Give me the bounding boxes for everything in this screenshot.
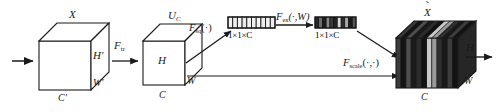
transform-operator-f: F	[114, 39, 121, 51]
transform-operator-subscript: tr	[121, 45, 125, 52]
excite-vector-dim-label: 1×1×C	[315, 30, 339, 40]
squeeze-operator-args: (·)	[201, 22, 212, 33]
result-cube-channel-label: C	[421, 92, 428, 102]
input-cube-channel-label: C'	[58, 93, 67, 103]
input-cube-top-label: X	[69, 9, 76, 20]
output-cube-height-label: H	[158, 55, 166, 66]
output-cube-u: U	[168, 9, 176, 21]
result-cube-height-label: H	[466, 42, 474, 53]
se-block-figure: X H' W' C' Ftr UC H W C Fsq(·) 1×1×C Fex…	[0, 0, 504, 112]
result-cube-tilde-accent: ˜	[426, 2, 429, 11]
scale-operator-label: Fscale(·,·)	[343, 58, 379, 69]
output-cube-channel-label: C	[159, 90, 166, 100]
output-cube-width-label: W	[187, 76, 195, 86]
squeeze-operator-label: Fsq(·)	[189, 23, 212, 34]
result-cube-width-label: W	[464, 76, 472, 86]
excitation-weights-vector	[315, 17, 356, 28]
apply-weights-arrow	[357, 31, 399, 58]
scale-operator-args: (·,·)	[362, 57, 379, 68]
squeeze-vector-dim-label: 1×1×C	[228, 30, 252, 40]
output-cube-top-subscript: C	[176, 15, 181, 22]
result-cube-top-label: ˜X	[424, 7, 431, 18]
output-cube-top-label: UC	[168, 10, 181, 23]
excite-operator-args: (·,W)	[289, 11, 310, 22]
excite-operator-label: Fex(·,W)	[276, 12, 310, 23]
input-cube-height-label: H'	[93, 50, 103, 61]
input-cube-width-label: W'	[93, 78, 103, 88]
transform-operator-label: Ftr	[114, 40, 125, 53]
scale-operator-subscript: scale	[349, 62, 362, 69]
squeeze-descriptor-vector	[228, 17, 275, 28]
